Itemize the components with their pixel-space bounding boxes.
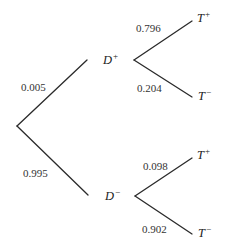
prob-d-minus: 0.995 [23,168,48,179]
edge-root-to-d-plus [17,60,87,126]
edge-root-to-d-minus [17,126,88,195]
node-t-minus-lower-letter: T [198,226,205,240]
node-d-plus: D+ [103,54,118,67]
prob-t-minus-given-d-plus: 0.204 [137,83,162,94]
node-d-minus-letter: D [105,189,114,203]
node-d-minus: D− [105,190,120,203]
tree-edges [0,0,228,248]
node-t-plus-lower-letter: T [197,148,204,162]
node-t-minus-upper: T− [198,90,211,103]
prob-d-plus: 0.005 [21,82,46,93]
node-t-plus-upper: T+ [197,12,210,25]
node-d-plus-letter: D [103,53,112,67]
node-t-plus-upper-letter: T [197,11,204,25]
node-t-plus-lower: T+ [197,149,210,162]
node-t-minus-lower: T− [198,227,211,240]
node-d-plus-sign: + [113,51,118,61]
prob-t-plus-given-d-plus: 0.796 [136,23,161,34]
node-t-minus-upper-letter: T [198,89,205,103]
prob-t-minus-given-d-minus: 0.902 [142,224,167,235]
node-t-minus-upper-sign: − [206,87,211,97]
node-t-plus-upper-sign: + [205,9,210,19]
prob-t-plus-given-d-minus: 0.098 [143,161,168,172]
node-d-minus-sign: − [115,187,120,197]
node-t-minus-lower-sign: − [206,224,211,234]
node-t-plus-lower-sign: + [205,146,210,156]
